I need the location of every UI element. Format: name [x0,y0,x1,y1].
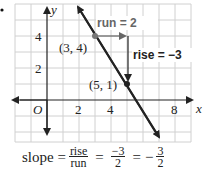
rise-annotation: rise = −3 [133,48,182,62]
origin-label: O [33,102,43,117]
point-3-4 [92,33,98,39]
frac2-denominator: 2 [114,157,122,168]
x-tick-8: 8 [171,102,178,117]
fraction-neg3-2: −3 2 [111,146,126,168]
frac1-denominator: run [70,157,88,168]
run-annotation: run = 2 [97,16,137,30]
point-label-5-1: (5, 1) [89,77,117,92]
x-tick-4: 4 [107,102,114,117]
negative-sign: − [145,149,153,166]
x-tick-2: 2 [75,102,82,117]
fraction-rise-run: rise run [69,146,88,168]
point-label-3-4: (3, 4) [59,40,87,55]
frac3-denominator: 2 [156,157,164,168]
bullet-icon [0,8,3,11]
equals-1: = [95,149,103,166]
y-tick-4: 4 [35,29,42,44]
x-axis-label: x [195,101,202,116]
equals-2: = [132,149,140,166]
coordinate-graph: y x O 2 4 8 4 2 (3, 4) (5, 1) run = 2 ri… [0,0,212,146]
y-tick-2: 2 [35,61,42,76]
formula-lhs: slope = [22,149,66,166]
fraction-3-2: 3 2 [156,146,164,168]
point-5-1 [124,81,130,87]
y-axis-label: y [49,2,57,17]
slope-formula: slope = rise run = −3 2 = − 3 2 [22,146,167,168]
